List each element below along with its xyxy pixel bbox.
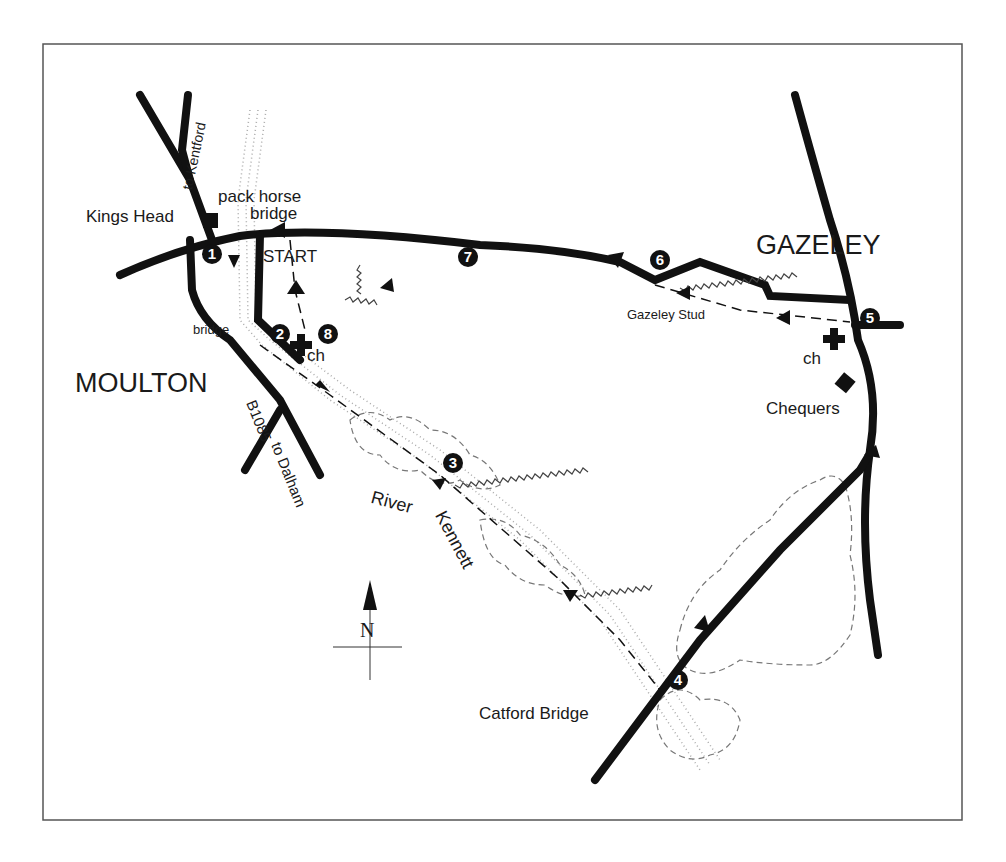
label-church-gazeley: ch [803,350,821,367]
label-pack-horse: pack horse [218,188,301,205]
map-canvas [0,0,1006,862]
waypoint-6: 6 [650,250,670,270]
label-church-moulton: ch [307,347,325,364]
waypoint-4: 4 [668,670,688,690]
hedges [345,265,797,598]
label-north: N [360,620,374,640]
arrow-icon [380,278,394,292]
label-gazeley-stud: Gazeley Stud [627,308,705,321]
arrow-icon [776,310,790,325]
catford-road [595,450,872,780]
place-moulton: MOULTON [75,370,208,397]
church-gazeley-icon [823,328,845,350]
chequers-pub-icon [834,372,855,393]
arrow-icon [432,478,446,490]
kings-head-pub-icon [203,213,218,228]
arrow-icon [694,615,710,632]
label-chequers: Chequers [766,400,840,417]
waypoint-5: 5 [860,308,880,328]
footpaths [260,240,850,690]
direction-arrows [228,222,880,632]
arrow-icon [676,286,690,300]
waypoint-1: 1 [202,244,222,264]
label-bridge-moulton: bridge [193,323,229,336]
waypoint-8: 8 [318,324,338,344]
label-catford-bridge: Catford Bridge [479,705,589,722]
river-kennett [238,110,720,770]
place-gazeley: GAZELEY [756,232,881,259]
main-road [120,233,850,300]
waypoint-2: 2 [270,324,290,344]
waypoint-7: 7 [458,247,478,267]
arrow-icon [228,255,240,268]
label-pack-horse-bridge: bridge [250,205,297,222]
walking-route-map: MOULTON GAZELEY Kings Head pack horse br… [0,0,1006,862]
arrow-icon [315,380,330,392]
woods [350,413,855,760]
label-start: START [263,248,317,265]
waypoint-3: 3 [443,453,463,473]
label-kings-head: Kings Head [86,208,174,225]
gazeley-road [795,95,878,655]
arrow-icon [287,280,305,294]
